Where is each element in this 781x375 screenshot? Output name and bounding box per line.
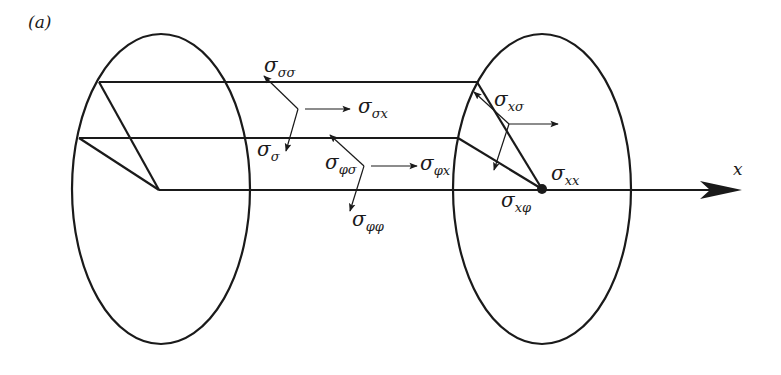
label-sigma-phi-x: σφx [420, 151, 451, 178]
label-sigma-x-phi: σxφ [501, 188, 532, 215]
panel-label: (a) [28, 12, 51, 32]
left-radial-line-middle [79, 138, 159, 190]
label-sigma-x-x: σxx [551, 161, 580, 188]
label-sigma-phi-sigma: σφσ [325, 150, 358, 177]
label-sigma-sigma-x: σσx [358, 94, 389, 121]
label-sigma-phi-phi: σφφ [352, 207, 385, 234]
label-sigma-sigma: σσ [257, 137, 281, 164]
arrow-sigma-sigma [286, 109, 298, 151]
stress-element-sigma [264, 76, 350, 151]
arrow-sigma-x-phi [494, 124, 509, 170]
label-sigma-x-sigma: σxσ [494, 87, 525, 114]
right-radial-line-middle [458, 138, 542, 189]
label-sigma-sigma-sigma: σσσ [264, 53, 297, 80]
left-radial-line-upper [99, 82, 159, 190]
x-axis-label: x [733, 159, 743, 179]
origin-point [537, 184, 547, 194]
stress-diagram: (a) x σσσ σσx σσ σφσ σφx σφφ σxσ σxx σxφ [0, 0, 781, 375]
